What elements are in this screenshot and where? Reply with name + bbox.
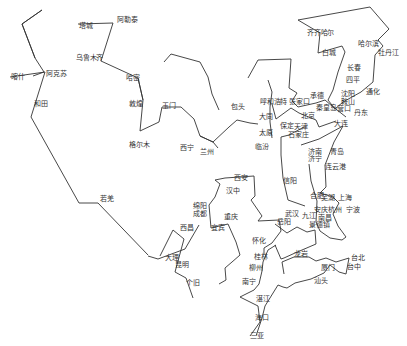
city-label: 武汉 [285, 210, 299, 218]
city-label: 承德 [310, 92, 324, 100]
city-label: 济宁 [308, 155, 322, 163]
city-label: 个旧 [186, 279, 200, 287]
city-label: 乌鲁木齐 [76, 54, 103, 62]
city-label: 阿克苏 [46, 70, 66, 78]
city-label: 通化 [366, 88, 380, 96]
route-hanzhong-chengdu [209, 180, 240, 284]
city-label: 北京 [301, 112, 315, 120]
city-label: 信阳 [283, 177, 297, 185]
city-label: 绵阳 [193, 202, 207, 210]
city-label: 阿勒泰 [117, 16, 137, 24]
route-xinjiang-west [22, 10, 44, 76]
city-label: 景德镇 [309, 221, 329, 229]
city-label: 若羌 [100, 195, 114, 203]
city-label: 宁波 [346, 206, 360, 214]
city-label: 长春 [347, 64, 361, 72]
route-lines [0, 0, 407, 346]
city-label: 台北 [351, 254, 365, 262]
city-label: 芜湖 [321, 194, 335, 202]
city-label: 湛江 [256, 295, 270, 303]
city-label: 大连 [334, 120, 348, 128]
city-label: 太原 [259, 129, 273, 137]
route-kashgar-hotan-lhasa [10, 72, 148, 255]
city-label: 营口 [337, 105, 351, 113]
city-label: 包头 [231, 103, 245, 111]
city-label: 杭州 [328, 206, 342, 214]
city-label: 昆明 [175, 261, 189, 269]
city-label: 安庆 [314, 206, 328, 214]
city-label: 西宁 [180, 144, 194, 152]
city-label: 九江 [302, 212, 316, 220]
city-label: 喀什 [11, 73, 25, 81]
city-label: 格尔木 [129, 141, 149, 149]
city-label: 成都 [193, 210, 207, 218]
city-label: 白城 [322, 49, 336, 57]
city-label: 哈密 [126, 74, 140, 82]
city-label: 汕头 [314, 277, 328, 285]
city-label: 怀化 [252, 237, 266, 245]
city-label: 桂林 [254, 253, 268, 261]
city-label: 天津 [294, 123, 308, 131]
city-label: 大同 [259, 113, 273, 121]
city-label: 汉中 [226, 187, 240, 195]
city-label: 和田 [34, 100, 48, 108]
city-label: 哈尔滨 [358, 40, 378, 48]
city-label: 连云港 [325, 163, 345, 171]
city-label: 张家口 [289, 98, 309, 106]
city-label: 四平 [346, 76, 360, 84]
city-label: 重庆 [224, 213, 238, 221]
city-label: 敦煌 [129, 100, 143, 108]
city-label: 秦皇岛 [316, 104, 336, 112]
city-label: 保定 [280, 122, 294, 130]
city-label: 岳阳 [277, 218, 291, 226]
city-label: 柳州 [249, 264, 263, 272]
city-label: 台中 [347, 263, 361, 271]
city-label: 西安 [234, 174, 248, 182]
city-label: 宜宾 [211, 224, 225, 232]
city-label: 青岛 [330, 148, 344, 156]
route-lanzhou-xian [200, 136, 218, 148]
city-label: 厦门 [321, 264, 335, 272]
city-label: 玉门 [162, 102, 176, 110]
city-label: 塔城 [79, 22, 93, 30]
city-label: 沈阳 [341, 90, 355, 98]
city-label: 兰州 [200, 148, 214, 156]
city-label: 西昌 [180, 224, 194, 232]
city-label: 海口 [255, 314, 269, 322]
city-label: 齐齐哈尔 [307, 29, 334, 37]
city-label: 石家庄 [288, 131, 308, 139]
city-label: 三亚 [250, 332, 264, 340]
city-label: 牡丹江 [378, 49, 398, 57]
china-route-map: 阿勒泰塔城乌鲁木齐哈密阿克苏喀什和田敦煌玉门格尔木西宁兰州若羌齐齐哈尔哈尔滨白城… [0, 0, 407, 346]
city-label: 临汾 [255, 143, 269, 151]
city-label: 丹东 [354, 109, 368, 117]
city-label: 龙岩 [294, 250, 308, 258]
city-label: 南宁 [242, 278, 256, 286]
city-label: 呼和浩特 [260, 98, 287, 106]
city-label: 上海 [338, 194, 352, 202]
